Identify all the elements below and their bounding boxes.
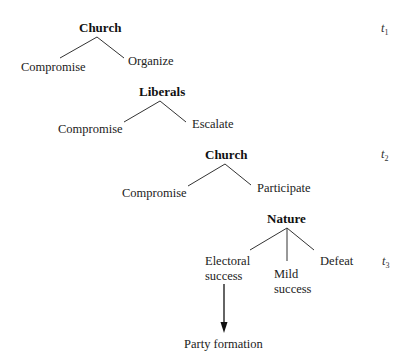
edge-church2-participate xyxy=(225,164,251,185)
branch-participate: Participate xyxy=(257,182,310,195)
node-nature: Nature xyxy=(267,212,306,226)
edge-liberals-compromise xyxy=(124,101,160,122)
branch-compromise-1: Compromise xyxy=(21,61,86,74)
edge-church2-compromise xyxy=(188,164,225,186)
time-label-t2: t2 xyxy=(381,147,388,163)
game-tree-diagram: Church Compromise Organize t1 Liberals C… xyxy=(0,0,409,363)
branch-electoral-line2: success xyxy=(205,269,250,284)
branch-mild-success: Mild success xyxy=(274,267,312,297)
node-liberals: Liberals xyxy=(139,85,185,99)
edge-nature-electoral xyxy=(250,228,287,250)
time-label-t3: t3 xyxy=(382,254,389,270)
node-church-2: Church xyxy=(205,148,247,162)
branch-organize: Organize xyxy=(128,55,174,68)
branch-mild-line1: Mild xyxy=(274,267,312,282)
branch-compromise-2: Compromise xyxy=(58,123,123,136)
node-church-1: Church xyxy=(79,21,121,35)
time-label-t1: t1 xyxy=(381,21,388,37)
outcome-party-formation: Party formation xyxy=(184,338,263,351)
branch-defeat: Defeat xyxy=(320,255,353,268)
branch-compromise-3: Compromise xyxy=(122,187,187,200)
edge-church1-compromise xyxy=(60,37,97,58)
branch-mild-line2: success xyxy=(274,282,312,297)
edge-liberals-escalate xyxy=(160,101,186,122)
edge-nature-defeat xyxy=(287,228,314,250)
branch-escalate: Escalate xyxy=(192,118,234,131)
arrowhead-icon xyxy=(221,322,228,333)
tree-edges xyxy=(0,0,409,363)
edge-church1-organize xyxy=(97,37,124,58)
branch-electoral-success: Electoral success xyxy=(205,254,250,284)
branch-electoral-line1: Electoral xyxy=(205,254,250,269)
